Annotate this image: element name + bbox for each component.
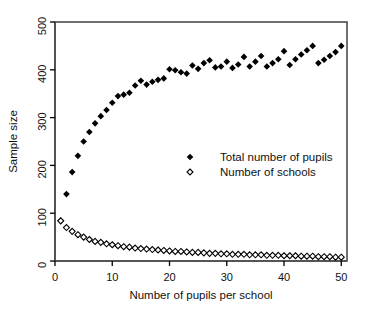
data-point (115, 243, 121, 249)
data-point (212, 250, 218, 256)
data-point (132, 82, 139, 89)
data-point (183, 70, 190, 77)
data-point (132, 245, 138, 251)
data-point (338, 254, 344, 260)
data-point (63, 191, 70, 198)
data-point (98, 113, 105, 120)
data-point (155, 247, 161, 253)
data-point (98, 239, 104, 245)
data-point (292, 253, 298, 259)
y-tick-label: 500 (36, 17, 48, 35)
data-point (338, 43, 345, 50)
data-point (126, 89, 133, 96)
x-tick-label: 10 (106, 271, 118, 283)
data-point (258, 252, 264, 258)
data-point (167, 248, 173, 254)
open-diamond-icon (187, 169, 193, 175)
data-point (189, 62, 196, 69)
data-point (109, 99, 116, 106)
data-point (75, 232, 81, 238)
y-tick-label: 400 (36, 65, 48, 83)
data-point (332, 49, 339, 56)
data-point (160, 75, 167, 82)
data-point (195, 249, 201, 255)
data-point (178, 69, 185, 76)
data-point (298, 51, 305, 58)
data-point (327, 53, 334, 60)
x-tick-label: 30 (221, 271, 233, 283)
data-point (321, 56, 328, 63)
data-point (126, 244, 132, 250)
data-point (115, 93, 122, 100)
data-point (121, 244, 127, 250)
data-point (172, 67, 179, 74)
data-point (246, 63, 253, 70)
data-point (69, 228, 75, 234)
data-point (144, 246, 150, 252)
data-point (309, 43, 316, 50)
data-point (103, 107, 110, 114)
data-point (120, 91, 127, 98)
data-point (201, 60, 208, 67)
data-point (304, 47, 311, 54)
data-point (109, 242, 115, 248)
data-point (218, 63, 225, 70)
data-point (155, 77, 162, 84)
data-point (92, 238, 98, 244)
y-axis-title: Sample size (7, 110, 19, 173)
x-tick-label: 50 (335, 271, 347, 283)
y-tick-label: 200 (36, 160, 48, 178)
data-point (206, 57, 213, 64)
data-point (69, 169, 76, 176)
data-point (63, 225, 69, 231)
data-point (212, 64, 219, 71)
data-point (80, 138, 87, 145)
x-tick-label: 0 (52, 271, 58, 283)
data-point (275, 56, 282, 63)
data-point (195, 66, 202, 73)
data-point (201, 250, 207, 256)
data-point (292, 56, 299, 63)
data-point (149, 247, 155, 253)
series-number-of-schools (58, 218, 345, 260)
data-point (58, 218, 64, 224)
data-point (184, 249, 190, 255)
data-point (149, 78, 156, 85)
data-point (178, 248, 184, 254)
data-point (315, 60, 322, 67)
data-point (138, 77, 145, 84)
data-point (81, 234, 87, 240)
y-tick-label: 300 (36, 112, 48, 130)
y-tick-label: 100 (36, 208, 48, 226)
data-point (327, 254, 333, 260)
data-point (241, 54, 248, 61)
data-point (104, 241, 110, 247)
data-point (275, 252, 281, 258)
plot-frame (55, 22, 347, 261)
data-point (229, 65, 236, 72)
data-point (281, 48, 288, 55)
data-point (75, 153, 82, 160)
data-point (86, 129, 93, 136)
data-point (258, 53, 265, 60)
data-point (223, 58, 230, 65)
data-point (143, 81, 150, 88)
chart-figure: 010020030040050001020304050Number of pup… (0, 0, 388, 314)
data-point (252, 58, 259, 65)
data-point (92, 120, 99, 127)
data-point (235, 61, 242, 68)
data-point (224, 251, 230, 257)
y-tick-label: 0 (36, 262, 48, 268)
filled-diamond-icon (187, 154, 194, 161)
data-point (86, 236, 92, 242)
x-axis-title: Number of pupils per school (129, 289, 272, 301)
data-point (241, 251, 247, 257)
data-point (310, 253, 316, 259)
data-point (138, 246, 144, 252)
legend-label: Total number of pupils (220, 151, 333, 163)
x-tick-label: 40 (278, 271, 290, 283)
data-point (269, 60, 276, 67)
series-total-number-of-pupils (57, 43, 344, 225)
data-point (166, 66, 173, 73)
x-tick-label: 20 (163, 271, 175, 283)
